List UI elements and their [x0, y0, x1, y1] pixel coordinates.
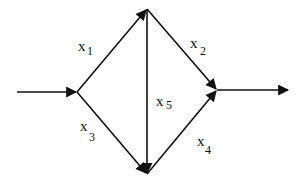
label-x2-subscript: 2	[200, 44, 206, 58]
label-x2-main: x	[190, 35, 198, 51]
label-x4-subscript: 4	[205, 143, 211, 157]
label-x5-main: x	[156, 93, 164, 109]
label-x4-main: x	[197, 133, 205, 149]
label-x2: x 2	[190, 35, 206, 58]
label-x3-main: x	[80, 118, 88, 134]
label-x3: x 3	[80, 118, 95, 144]
label-x3-subscript: 3	[89, 130, 95, 144]
label-x4: x 4	[197, 133, 211, 157]
label-x5-subscript: 5	[166, 98, 172, 112]
network-diagram: x 1 x 2 x 3 x 4 x 5	[0, 0, 302, 182]
label-x1-subscript: 1	[87, 44, 93, 58]
label-x5: x 5	[156, 93, 172, 112]
label-x1-main: x	[78, 38, 86, 54]
label-x1: x 1	[78, 38, 93, 58]
